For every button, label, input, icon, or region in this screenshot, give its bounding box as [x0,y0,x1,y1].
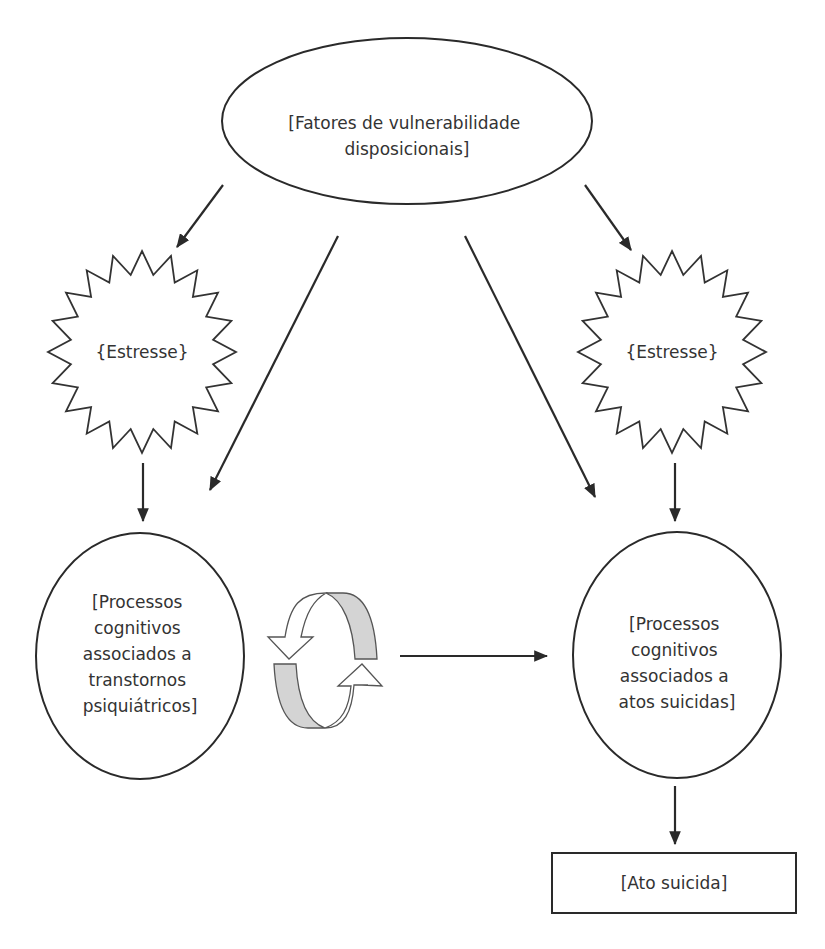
cycle-arc-lower-white [325,664,382,728]
cognitive-psychiatric-label-line: cognitivos [94,618,181,638]
stress-right-label: {Estresse} [625,342,718,362]
stress-left-label: {Estresse} [95,342,188,362]
cognitive-psychiatric-label-line: associados a [83,644,192,664]
diagram-canvas: [Fatores de vulnerabilidade disposiciona… [0,0,825,949]
vulnerability-label-line: [Fatores de vulnerabilidade [288,113,520,133]
node-stress-right: {Estresse} [578,251,766,453]
vulnerability-label-line: disposicionais] [344,139,469,159]
cognitive-suicidal-label-line: [Processos [629,614,720,634]
arrow-vulnerability-to-cognitive-psychiatric [210,236,338,490]
arrow-vulnerability-to-stress-left [177,185,223,247]
cognitive-psychiatric-label: [Processos cognitivos associados a trans… [83,592,198,716]
cognitive-suicidal-label-line: cognitivos [631,640,718,660]
edges [143,185,675,844]
circular-arrows-icon [268,593,382,728]
cycle-band-lower-gray [274,664,325,728]
cognitive-psychiatric-label-line: [Processos [92,592,183,612]
cycle-arc-upper-white [268,593,326,659]
suicide-act-label: [Ato suicida] [621,873,728,893]
cognitive-psychiatric-label-line: psiquiátricos] [83,696,198,716]
arrow-vulnerability-to-cognitive-suicidal [465,236,595,497]
cycle-band-upper-gray [326,593,377,659]
node-vulnerability-factors: [Fatores de vulnerabilidade disposiciona… [222,38,592,204]
cognitive-suicidal-label-line: associados a [620,666,729,686]
cognitive-suicidal-label-line: atos suicidas] [619,692,736,712]
node-cognitive-psychiatric: [Processos cognitivos associados a trans… [36,533,244,779]
node-cognitive-suicidal: [Processos cognitivos associados a atos … [573,532,781,778]
node-stress-left: {Estresse} [48,251,236,453]
arrow-vulnerability-to-stress-right [585,185,631,250]
cognitive-psychiatric-label-line: transtornos [89,670,187,690]
node-suicide-act: [Ato suicida] [552,853,796,913]
